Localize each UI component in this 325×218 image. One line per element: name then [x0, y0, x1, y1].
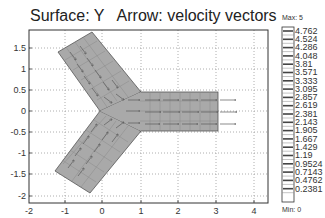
x-tick-label: -2	[19, 206, 39, 216]
colorbar-max-label: Max: 5	[282, 14, 303, 21]
surface-geometry	[55, 32, 218, 193]
y-tick-label: -2	[2, 191, 26, 201]
y-tick-label: 0	[2, 106, 26, 116]
x-tick-label: 4	[244, 206, 264, 216]
outlet-channel	[140, 92, 218, 131]
x-tick-label: 3	[206, 206, 226, 216]
x-tick-label: 0	[92, 206, 112, 216]
y-tick-label: -0.5	[2, 127, 26, 137]
colorbar-tick-label: 0.2381	[295, 185, 323, 194]
x-tick-label: 2	[168, 206, 188, 216]
y-tick-label: -1.5	[2, 169, 26, 179]
colorbar-min-label: Min: 0	[282, 206, 301, 213]
y-tick-label: 0.5	[2, 85, 26, 95]
plot-area	[0, 0, 325, 218]
y-tick-label: 1.5	[2, 43, 26, 53]
y-tick-label: 1	[2, 64, 26, 74]
x-tick-label: -1	[55, 206, 75, 216]
y-tick-label: -1	[2, 148, 26, 158]
colorbar	[282, 27, 294, 202]
x-tick-label: 1	[131, 206, 151, 216]
